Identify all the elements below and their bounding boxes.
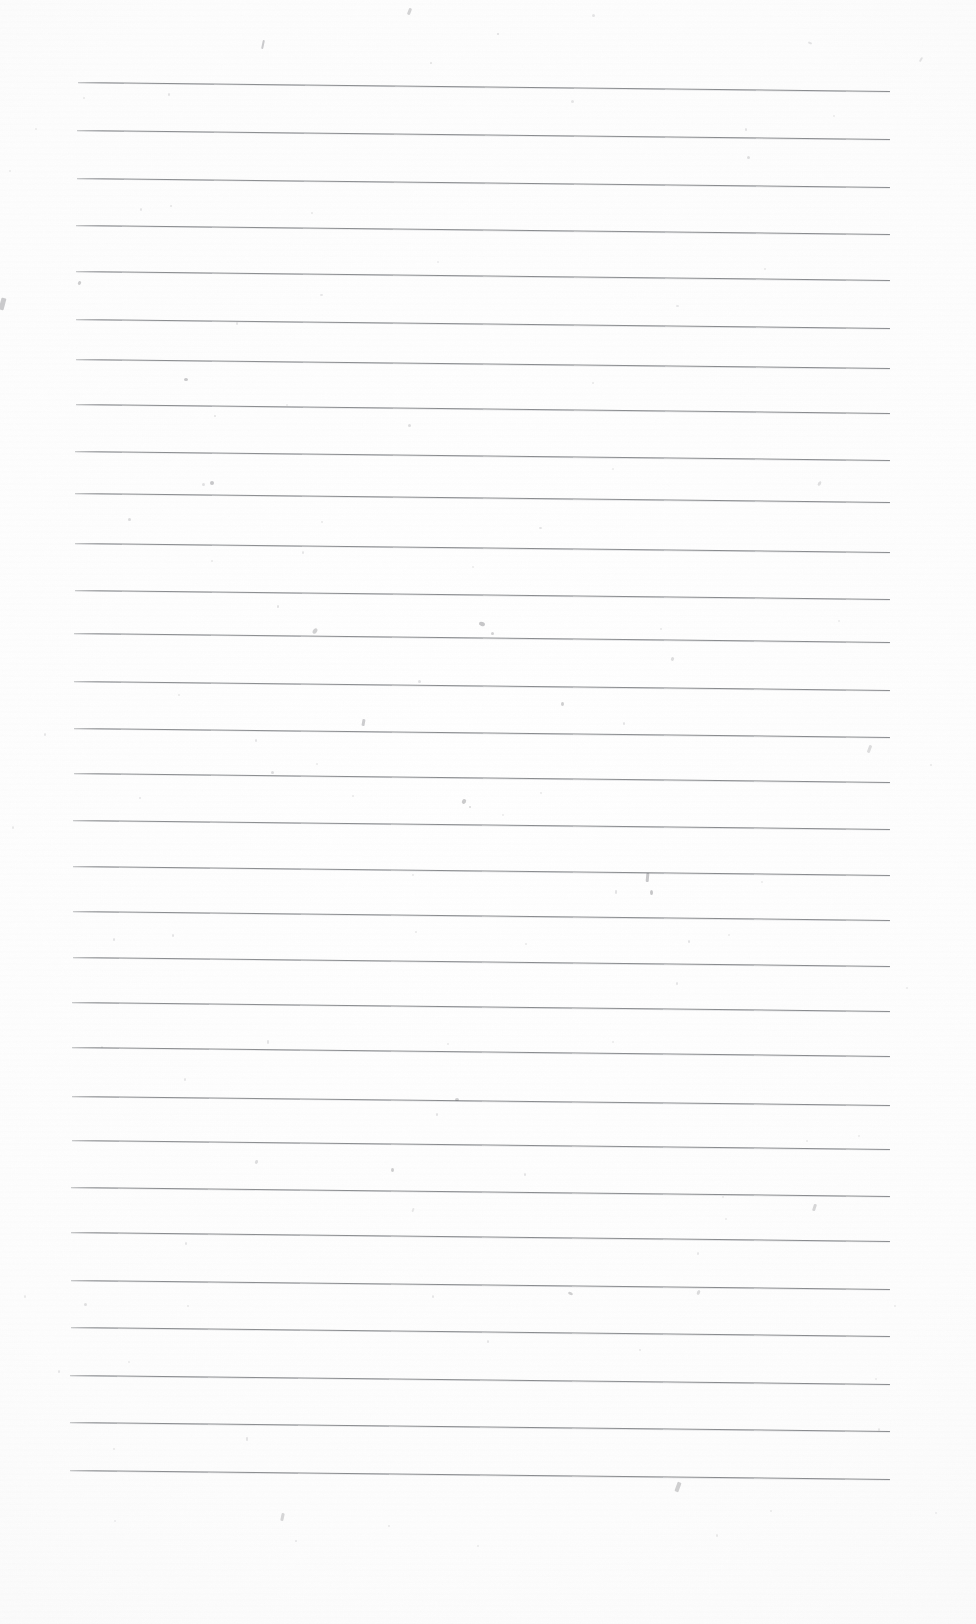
scan-speck [930, 764, 932, 766]
scan-speck [35, 128, 37, 130]
scan-speck [716, 1534, 718, 1537]
scan-speck [388, 1525, 390, 1527]
scan-speck [497, 33, 499, 35]
scan-speck [280, 1513, 285, 1521]
scan-speck [592, 14, 595, 17]
scan-speck [58, 1370, 60, 1373]
scan-speck [24, 1295, 26, 1298]
scan-speck [407, 8, 412, 16]
scan-speck [935, 1512, 937, 1514]
scan-speck [808, 41, 812, 44]
scan-speck [9, 170, 11, 172]
handwriting-area [78, 82, 890, 1472]
scan-speck [114, 1520, 116, 1522]
scanned-page [0, 0, 976, 1624]
scan-speck [894, 1305, 896, 1307]
scan-speck [295, 1540, 297, 1542]
scan-speck [261, 40, 265, 49]
scan-speck [770, 1510, 772, 1512]
scan-speck [12, 826, 14, 829]
scan-speck [906, 987, 908, 989]
scan-speck [674, 1482, 681, 1493]
scan-speck [44, 733, 46, 736]
scan-speck [919, 57, 923, 62]
scan-speck [430, 62, 432, 64]
scan-speck [0, 298, 6, 311]
scan-speck [477, 1545, 479, 1547]
